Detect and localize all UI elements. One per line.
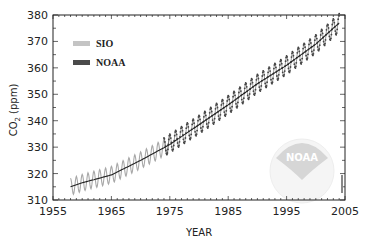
y-axis-title: CO2(ppm) <box>8 84 22 137</box>
y-tick-label: 350 <box>27 88 48 101</box>
series-sio <box>71 136 170 194</box>
legend-label-sio: SIO <box>96 38 113 49</box>
legend-swatch-sio <box>73 41 90 46</box>
series-noaa <box>163 13 340 156</box>
noaa-logo-text: NOAA <box>286 152 318 163</box>
legend-label-noaa: NOAA <box>96 57 126 68</box>
x-tick-label: 1985 <box>214 205 242 218</box>
x-tick-label: 1955 <box>39 205 67 218</box>
x-tick-labels: 195519651975198519952005 <box>39 205 359 218</box>
y-axis-title-main: CO <box>8 121 19 136</box>
x-tick-label: 2005 <box>331 205 359 218</box>
series-noaa-line <box>164 14 339 155</box>
noaa-logo: NOAA <box>270 139 334 203</box>
x-tick-label: 1975 <box>156 205 184 218</box>
co2-chart: NOAA 310320330340350360370380 1955196519… <box>0 0 367 243</box>
y-tick-label: 370 <box>27 35 48 48</box>
legend-swatch-noaa <box>73 60 90 65</box>
legend: SIO NOAA <box>73 38 126 68</box>
credit-text <box>341 175 343 193</box>
x-axis-title: YEAR <box>185 227 212 238</box>
y-tick-label: 320 <box>27 168 48 181</box>
y-tick-label: 340 <box>27 115 48 128</box>
y-tick-label: 380 <box>27 9 48 22</box>
x-tick-label: 1965 <box>97 205 125 218</box>
y-tick-labels: 310320330340350360370380 <box>27 9 48 207</box>
y-axis-title-unit: (ppm) <box>8 84 19 114</box>
y-axis-title-sub: 2 <box>14 117 22 121</box>
y-tick-label: 330 <box>27 141 48 154</box>
x-tick-label: 1995 <box>273 205 301 218</box>
svg-text:CO2(ppm): CO2(ppm) <box>8 84 22 137</box>
y-tick-label: 360 <box>27 62 48 75</box>
